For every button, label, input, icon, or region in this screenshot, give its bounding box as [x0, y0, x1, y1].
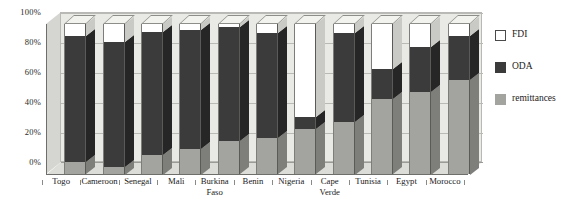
bar-morocco[interactable] [448, 24, 470, 174]
bar-segment-oda-togo[interactable] [64, 36, 86, 162]
chart-figure: 0%20%40%60%80%100% TogoCameroonSenegalMa… [0, 0, 565, 218]
bar-segment-oda-morocco[interactable] [448, 36, 470, 80]
gridline-100 [61, 13, 483, 14]
bar-segment-remittances-benin[interactable] [256, 138, 278, 174]
legend-label: ODA [512, 61, 533, 71]
bar-segment-oda-nigeria[interactable] [294, 117, 316, 129]
bar-segment-oda-senegal[interactable] [141, 32, 163, 155]
bar-segment-oda-burkina-faso[interactable] [218, 27, 240, 141]
bar-segment-remittances-burkina-faso[interactable] [218, 141, 240, 174]
bar-segment-fdi-benin[interactable] [256, 24, 278, 33]
legend-item-remittances[interactable]: remittances [495, 94, 565, 126]
gray-swatch-icon [495, 94, 506, 105]
bar-segment-fdi-egypt[interactable] [409, 24, 431, 47]
legend-item-oda[interactable]: ODA [495, 62, 565, 94]
x-axis-line [46, 174, 468, 175]
bar-segment-remittances-cameroon[interactable] [103, 167, 125, 175]
bar-segment-fdi-cape-verde[interactable] [333, 24, 355, 33]
bar-benin[interactable] [256, 24, 278, 174]
bar-segment-oda-benin[interactable] [256, 33, 278, 138]
bar-cape-verde[interactable] [333, 24, 355, 174]
bar-segment-fdi-nigeria[interactable] [294, 24, 316, 117]
y-tick-label-20: 20% [25, 127, 41, 137]
bar-segment-remittances-mali[interactable] [179, 149, 201, 175]
axis-side-wall [46, 12, 61, 174]
bar-segment-fdi-cameroon[interactable] [103, 24, 125, 42]
bar-segment-remittances-senegal[interactable] [141, 155, 163, 175]
legend-label: remittances [512, 93, 556, 103]
dark-swatch-icon [495, 62, 506, 73]
bar-segment-remittances-tunisia[interactable] [371, 99, 393, 174]
chart-legend: FDIODAremittances [495, 30, 565, 126]
bar-burkina-faso[interactable] [218, 24, 240, 174]
bar-segment-oda-egypt[interactable] [409, 47, 431, 92]
bar-togo[interactable] [64, 24, 86, 174]
bar-mali[interactable] [179, 24, 201, 174]
plot-area [46, 12, 482, 174]
y-tick-label-60: 60% [25, 67, 41, 77]
white-swatch-icon [495, 30, 506, 41]
y-tick-label-100: 100% [20, 7, 41, 17]
bar-segment-oda-cape-verde[interactable] [333, 33, 355, 122]
bar-segment-fdi-morocco[interactable] [448, 24, 470, 36]
bar-segment-oda-mali[interactable] [179, 30, 201, 149]
bar-tunisia[interactable] [371, 24, 393, 174]
bar-segment-oda-cameroon[interactable] [103, 42, 125, 167]
bar-segment-remittances-morocco[interactable] [448, 80, 470, 175]
y-tick-label-40: 40% [25, 97, 41, 107]
bar-senegal[interactable] [141, 24, 163, 174]
y-tick-label-80: 80% [25, 37, 41, 47]
y-axis-line [46, 24, 47, 175]
bar-segment-fdi-mali[interactable] [179, 24, 201, 30]
x-axis-label-morocco: Morocco [407, 176, 483, 187]
bar-nigeria[interactable] [294, 24, 316, 174]
legend-item-fdi[interactable]: FDI [495, 30, 565, 62]
y-tick-label-0: 0% [29, 157, 41, 167]
bar-egypt[interactable] [409, 24, 431, 174]
bar-segment-fdi-senegal[interactable] [141, 24, 163, 32]
bar-segment-remittances-nigeria[interactable] [294, 129, 316, 174]
bar-segment-remittances-egypt[interactable] [409, 92, 431, 175]
bar-segment-oda-tunisia[interactable] [371, 69, 393, 99]
bar-cameroon[interactable] [103, 24, 125, 174]
bar-segment-fdi-burkina-faso[interactable] [218, 24, 240, 27]
bar-segment-fdi-tunisia[interactable] [371, 24, 393, 69]
bar-segment-remittances-togo[interactable] [64, 162, 86, 174]
legend-label: FDI [512, 29, 527, 39]
bar-segment-remittances-cape-verde[interactable] [333, 122, 355, 175]
bar-segment-fdi-togo[interactable] [64, 24, 86, 36]
